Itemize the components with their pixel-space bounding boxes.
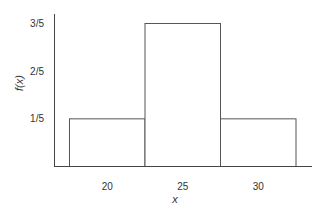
x-tick-label: 30 (253, 181, 265, 192)
x-axis-label: x (171, 193, 178, 205)
y-tick-label: 1/5 (30, 113, 44, 124)
bar-20 (70, 119, 146, 167)
bars-group (70, 24, 297, 167)
probability-histogram: 1/52/53/5 202530 x f(x) (0, 0, 325, 213)
y-tick-label: 2/5 (30, 66, 44, 77)
y-axis-label: f(x) (13, 75, 25, 91)
x-tick-label: 25 (177, 181, 189, 192)
bar-30 (221, 119, 297, 167)
x-tick-labels: 202530 (102, 181, 265, 192)
x-tick-label: 20 (102, 181, 114, 192)
y-tick-label: 3/5 (30, 18, 44, 29)
bar-25 (145, 24, 221, 167)
y-tick-labels: 1/52/53/5 (30, 18, 44, 124)
